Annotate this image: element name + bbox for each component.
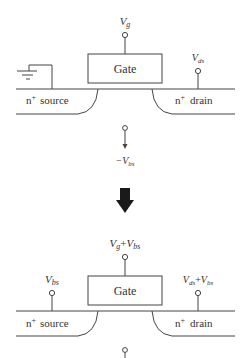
bottom-source-voltage-label: Vbs — [45, 273, 59, 287]
bottom-gate-label: Gate — [114, 284, 137, 298]
mosfet-body-bias-diagram: Vg Gate Vds n+source n+drain — [0, 0, 248, 358]
bottom-drain-label: n+drain — [175, 316, 213, 329]
bottom-source-terminal-icon — [49, 290, 54, 295]
top-gate-terminal-icon — [122, 32, 127, 37]
top-transistor: Vg Gate Vds n+source n+drain — [16, 15, 235, 168]
bottom-drain-terminal-icon — [195, 290, 200, 295]
bottom-drain-voltage-label: Vds+Vbs — [183, 274, 214, 287]
ground-icon — [17, 65, 52, 79]
bottom-substrate-terminal-icon — [123, 348, 128, 353]
bottom-gate-voltage-label: Vg+Vbs — [110, 237, 141, 251]
top-substrate-terminal-icon — [123, 126, 128, 131]
bottom-transistor: Vg+Vbs Gate Vbs Vds+Vbs n+source n+drain — [16, 237, 235, 358]
top-drain-label: n+drain — [175, 93, 213, 106]
bottom-source-label: n+source — [26, 316, 69, 329]
top-drain-voltage-label: Vds — [192, 52, 205, 65]
top-gate-label: Gate — [114, 62, 137, 76]
top-drain-terminal-icon — [195, 68, 200, 73]
top-gate-voltage-label: Vg — [120, 15, 131, 29]
down-arrow-icon — [116, 188, 134, 213]
top-substrate-voltage-label: −Vbs — [115, 155, 134, 168]
bottom-gate-terminal-icon — [122, 254, 127, 259]
top-source-label: n+source — [26, 93, 69, 106]
substrate-arrow-icon — [123, 144, 128, 149]
